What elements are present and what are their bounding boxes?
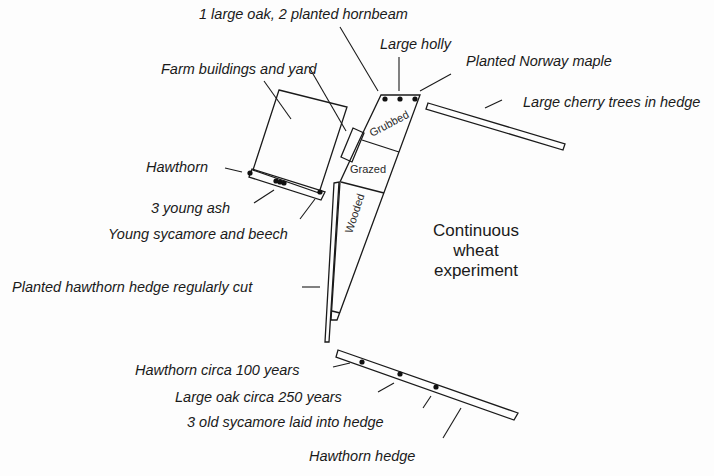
label-farm: Farm buildings and yard [161,61,317,77]
wooded-bottom-divider [332,311,340,313]
leader-young-ash [254,190,274,203]
label-hawthorn-hedge: Hawthorn hedge [309,448,415,464]
old-sycamore-dot [433,384,438,389]
label-hawthorn-100: Hawthorn circa 100 years [135,362,299,378]
farm-buildings-outline [253,90,347,193]
center-label-line-3: experiment [434,261,518,280]
oak-250-dot [397,371,402,376]
yard-annex [341,128,364,162]
label-hawthorn: Hawthorn [146,159,208,175]
label-planted-hawthorn: Planted hawthorn hedge regularly cut [12,279,253,295]
label-old-sycamore: 3 old sycamore laid into hedge [187,414,384,430]
zone-grazed: Grazed [350,163,386,175]
sycamore-beech-dot [317,189,322,194]
leader-norway-maple [420,74,451,91]
diagram-canvas: Grubbed Grazed Wooded 1 large oak, 2 pla… [0,0,714,476]
leader-hawthorn-hedge [443,408,461,438]
oak-hornbeam-dot [382,96,387,101]
hawthorn-dot [247,170,252,175]
center-label-line-2: wheat [452,241,499,260]
leader-cherry [485,100,502,108]
norway-maple-dot [412,96,417,101]
label-sycamore-beech: Young sycamore and beech [108,226,288,242]
leader-hawthorn [225,168,242,172]
leader-oak-hornbeam [340,27,378,91]
planted-hawthorn-hedge [325,182,339,342]
hawthorn-100-dot [359,359,364,364]
grazed-wooded-divider [341,182,384,193]
zone-wooded: Wooded [342,192,366,234]
label-oak-hornbeam: 1 large oak, 2 planted hornbeam [199,6,408,22]
leader-sycamore-beech [300,199,315,219]
cherry-hedge [426,103,565,150]
field-map: Grubbed Grazed Wooded 1 large oak, 2 pla… [0,0,714,476]
center-label-line-1: Continuous [433,221,519,240]
farm-hedge-strip [249,169,325,200]
holly-dot [397,96,402,101]
leader-farm-1 [264,81,291,119]
label-norway-maple: Planted Norway maple [466,53,612,69]
label-holly: Large holly [380,36,452,52]
label-young-ash: 3 young ash [151,200,230,216]
grubbed-grazed-divider [362,140,399,152]
label-cherry: Large cherry trees in hedge [523,94,700,110]
leader-oak-250 [378,383,394,392]
label-oak-250: Large oak circa 250 years [175,389,342,405]
ash-dot-3 [281,180,286,185]
zone-grubbed: Grubbed [367,108,410,139]
leader-hawthorn-100 [333,363,350,367]
leader-old-sycamore [423,396,431,408]
